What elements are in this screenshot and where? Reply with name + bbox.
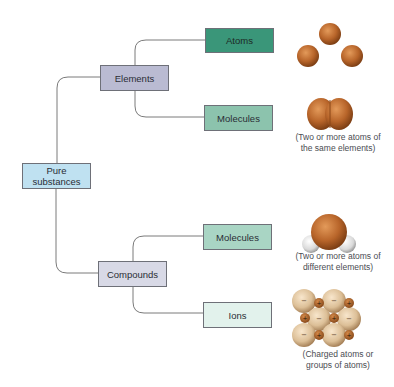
ionic-lattice-illustration: − − − − − − + + + + + + <box>291 288 367 348</box>
atoms-node: Atoms <box>205 28 274 53</box>
svg-text:+: + <box>302 314 307 321</box>
compounds-label: Compounds <box>107 269 158 280</box>
compound-molecules-label: Molecules <box>216 232 259 243</box>
element-molecules-label: Molecules <box>217 113 260 124</box>
compound-molecules-node: Molecules <box>203 224 272 250</box>
elements-label: Elements <box>115 73 155 84</box>
svg-text:−: − <box>316 315 322 323</box>
ions-node: Ions <box>203 302 272 328</box>
element-molecules-caption: (Two or more atoms of the same elements) <box>283 132 393 153</box>
svg-text:+: + <box>316 299 321 306</box>
diatomic-molecule-illustration <box>305 96 355 132</box>
pure-substances-label: Pure substances <box>23 165 90 187</box>
svg-text:+: + <box>346 331 351 338</box>
svg-text:−: − <box>301 297 307 305</box>
elements-node: Elements <box>100 65 169 91</box>
water-molecule-illustration <box>299 210 359 256</box>
compound-molecules-caption: (Two or more atoms of different elements… <box>283 251 393 272</box>
element-molecules-node: Molecules <box>204 105 273 131</box>
svg-text:−: − <box>331 331 337 339</box>
ions-label: Ions <box>229 310 247 321</box>
ions-caption: (Charged atoms or groups of atoms) <box>283 349 393 370</box>
svg-text:−: − <box>346 315 352 323</box>
svg-text:−: − <box>301 331 307 339</box>
svg-text:+: + <box>346 299 351 306</box>
pure-substances-node: Pure substances <box>22 163 91 189</box>
svg-text:+: + <box>331 314 336 321</box>
svg-text:−: − <box>331 297 337 305</box>
three-atoms-illustration <box>290 18 370 72</box>
svg-text:+: + <box>316 331 321 338</box>
atoms-label: Atoms <box>226 35 253 46</box>
compounds-node: Compounds <box>98 261 167 287</box>
